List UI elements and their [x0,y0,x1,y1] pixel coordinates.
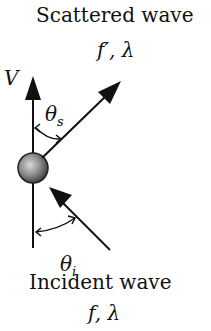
theta-i-arc [36,218,75,232]
incident-wave-title: Incident wave [29,272,171,292]
scattered-wave-title: Scattered wave [36,5,193,25]
incident-wave-params: f, λ [88,303,120,323]
incident-wave-arrow [49,187,110,250]
theta-s-label: θs [45,104,64,128]
theta-s-arc [36,128,60,139]
velocity-label: V [4,68,18,88]
scattered-wave-params: f′, λ [97,40,134,60]
